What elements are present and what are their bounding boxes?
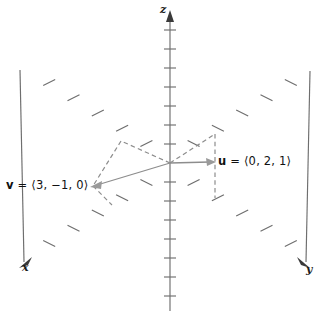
z-axis-arrowhead: [166, 10, 174, 22]
v-dashed-lower: [93, 186, 112, 205]
bottom-clipped-text: [0, 322, 329, 331]
vector-u-label: u = ⟨0, 2, 1⟩: [218, 156, 291, 168]
x-axis-group: [19, 70, 152, 268]
y-axis-ticks-negative: [188, 80, 297, 147]
y-axis-group: [188, 71, 310, 268]
vector-u-projection: [170, 134, 215, 198]
v-shaft: [97, 163, 170, 185]
u-dashed-upper: [170, 134, 215, 163]
y-axis-ticks-positive: [188, 180, 297, 247]
z-axis-group: [164, 10, 176, 311]
vector-diagram-figure: z x y u = ⟨0, 2, 1⟩ v = ⟨3, −1, 0⟩: [0, 0, 329, 331]
vector-v-projection: [93, 141, 170, 205]
u-shaft: [170, 162, 210, 163]
vector-v-label: v = ⟨3, −1, 0⟩: [6, 180, 88, 192]
x-axis-line: [20, 70, 24, 262]
x-axis-ticks-negative: [43, 80, 152, 147]
y-axis-line: [306, 71, 310, 262]
z-axis-label: z: [160, 4, 166, 15]
y-axis-label: y: [306, 264, 312, 275]
x-axis-label: x: [22, 262, 29, 273]
vector-v-arrow: [90, 163, 170, 189]
